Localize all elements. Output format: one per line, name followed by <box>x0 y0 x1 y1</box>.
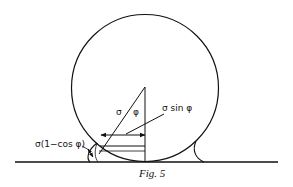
figure-caption: Fig. 5 <box>139 168 165 179</box>
left-meniscus <box>88 143 97 162</box>
radius-line <box>99 87 145 154</box>
angle-label: φ <box>133 108 139 117</box>
right-meniscus <box>194 141 204 162</box>
sin-label: σ sin φ <box>162 104 192 113</box>
radius-label: σ <box>116 108 122 117</box>
cos-label: σ(1−cos φ) <box>35 140 85 149</box>
diagram-figure <box>0 0 293 187</box>
